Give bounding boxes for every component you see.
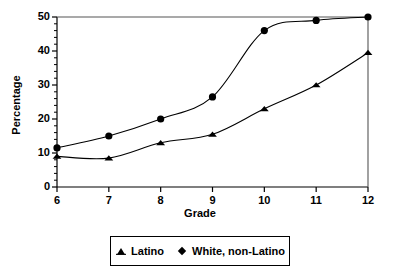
series-line <box>57 53 368 159</box>
legend-item-label: White, non-Latino <box>192 245 285 257</box>
series-white-non-latino <box>53 13 371 151</box>
x-tick-label: 8 <box>149 194 173 206</box>
legend-item-white-non-latino: White, non-Latino <box>176 245 285 257</box>
y-tick-label: 40 <box>24 44 50 56</box>
x-tick-label: 7 <box>97 194 121 206</box>
y-tick-label: 30 <box>24 78 50 90</box>
data-point-marker <box>364 50 373 55</box>
x-tick-label: 10 <box>252 194 276 206</box>
legend-item-label: Latino <box>131 245 164 257</box>
x-tick-label: 11 <box>304 194 328 206</box>
diamond-marker-icon <box>176 245 188 257</box>
y-axis-label: Percentage <box>10 75 22 134</box>
chart-figure: Percentage Grade 01020304050 6789101112 … <box>0 0 400 279</box>
y-axis-label-wrapper: Percentage <box>8 55 24 155</box>
y-tick-label: 10 <box>24 146 50 158</box>
axis-frame <box>57 17 368 187</box>
data-point-marker <box>209 93 216 100</box>
data-point-marker <box>208 131 217 136</box>
y-tick-label: 50 <box>24 10 50 22</box>
axis-ticks <box>52 17 368 192</box>
legend-item-latino: Latino <box>115 245 164 257</box>
data-series-group <box>53 13 373 160</box>
series-latino <box>53 50 373 161</box>
triangle-marker-icon <box>115 245 127 257</box>
data-point-marker <box>261 27 268 34</box>
data-point-marker <box>105 132 112 139</box>
x-tick-label: 12 <box>356 194 380 206</box>
data-point-marker <box>157 115 164 122</box>
x-axis-label: Grade <box>0 207 400 219</box>
data-point-marker <box>313 17 320 24</box>
x-tick-label: 9 <box>201 194 225 206</box>
y-tick-label: 20 <box>24 112 50 124</box>
data-point-marker <box>53 144 60 151</box>
data-point-marker <box>364 13 371 20</box>
chart-legend: Latino White, non-Latino <box>110 236 290 266</box>
x-tick-label: 6 <box>45 194 69 206</box>
y-tick-label: 0 <box>24 180 50 192</box>
data-point-marker <box>260 106 269 111</box>
